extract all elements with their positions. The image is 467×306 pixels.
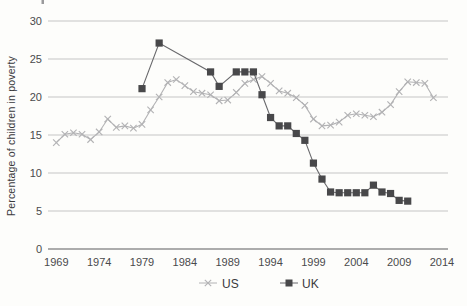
gridlines — [48, 21, 448, 249]
x-tick-label-1979: 1979 — [130, 256, 154, 268]
us-point-1984 — [182, 82, 188, 88]
us-point-1991 — [242, 80, 248, 86]
us-point-1979 — [139, 121, 145, 127]
uk-point-1995 — [276, 122, 283, 129]
uk-point-1981 — [156, 39, 163, 46]
y-tick-label-0: 0 — [36, 243, 42, 255]
us-point-1978 — [130, 125, 136, 131]
uk-series — [138, 39, 411, 204]
uk-point-2000 — [318, 175, 325, 182]
legend-item-us: US — [199, 277, 239, 291]
uk-point-1999 — [310, 160, 317, 167]
legend: US UK — [199, 277, 319, 291]
uk-point-1979 — [138, 85, 145, 92]
x-tick-label-2004: 2004 — [344, 256, 368, 268]
us-point-2009 — [396, 88, 402, 94]
us-point-1975 — [105, 116, 111, 122]
uk-point-1996 — [284, 122, 291, 129]
uk-point-2001 — [327, 188, 334, 195]
uk-point-2003 — [344, 189, 351, 196]
y-tick-label-5: 5 — [36, 205, 42, 217]
us-point-2002 — [336, 119, 342, 125]
uk-point-2007 — [378, 188, 385, 195]
uk-point-1988 — [216, 83, 223, 90]
x-tick-label-2009: 2009 — [387, 256, 411, 268]
x-tick-label-1984: 1984 — [173, 256, 197, 268]
us-point-1973 — [87, 136, 93, 142]
x-tick-label-1989: 1989 — [215, 256, 239, 268]
y-tick-label-10: 10 — [30, 167, 42, 179]
cropped-text-artifact — [42, 0, 45, 4]
uk-point-1987 — [207, 68, 214, 75]
us-point-1994 — [267, 80, 273, 86]
x-tick-label-2014: 2014 — [430, 256, 454, 268]
us-legend-label: US — [222, 277, 239, 291]
us-point-2007 — [379, 109, 385, 115]
legend-item-uk: UK — [280, 277, 319, 291]
us-point-1997 — [293, 95, 299, 101]
y-tick-label-20: 20 — [30, 91, 42, 103]
us-point-1974 — [96, 129, 102, 135]
uk-point-1994 — [267, 114, 274, 121]
us-point-2013 — [430, 95, 436, 101]
uk-point-2008 — [387, 190, 394, 197]
plot-series — [53, 39, 437, 204]
us-point-1969 — [53, 139, 59, 145]
x-tick-label-1994: 1994 — [258, 256, 282, 268]
us-point-1998 — [302, 102, 308, 108]
uk-line — [142, 43, 408, 201]
us-point-1999 — [310, 116, 316, 122]
chart-canvas: 0510152025301969197419791984198919941999… — [0, 0, 467, 306]
y-tick-label-15: 15 — [30, 129, 42, 141]
us-point-1996 — [285, 90, 291, 96]
us-line — [56, 76, 433, 142]
x-tick-label-1974: 1974 — [87, 256, 111, 268]
us-point-1982 — [165, 79, 171, 85]
uk-legend-square-icon — [286, 280, 293, 287]
uk-point-1992 — [250, 68, 257, 75]
y-tick-label-25: 25 — [30, 53, 42, 65]
us-point-1990 — [233, 89, 239, 95]
y-tick-label-30: 30 — [30, 15, 42, 27]
y-axis-title: Percentage of children in poverty — [5, 55, 17, 216]
uk-point-2002 — [336, 189, 343, 196]
us-point-2008 — [387, 101, 393, 107]
uk-point-1997 — [293, 130, 300, 137]
uk-point-1991 — [241, 68, 248, 75]
uk-point-1998 — [301, 137, 308, 144]
x-tick-label-1969: 1969 — [44, 256, 68, 268]
uk-legend-label: UK — [302, 277, 319, 291]
x-tick-label-1999: 1999 — [301, 256, 325, 268]
us-point-1995 — [276, 88, 282, 94]
us-point-1983 — [173, 76, 179, 82]
uk-point-2009 — [396, 197, 403, 204]
uk-point-2005 — [361, 189, 368, 196]
us-uk-child-poverty-figure: 0510152025301969197419791984198919941999… — [0, 0, 467, 306]
uk-point-1993 — [258, 91, 265, 98]
us-point-1993 — [259, 73, 265, 79]
uk-point-2006 — [370, 182, 377, 189]
axis-tick-labels: 0510152025301969197419791984198919941999… — [30, 15, 454, 269]
uk-point-2010 — [404, 198, 411, 205]
uk-point-1990 — [233, 68, 240, 75]
uk-point-2004 — [353, 189, 360, 196]
us-point-1980 — [147, 107, 153, 113]
